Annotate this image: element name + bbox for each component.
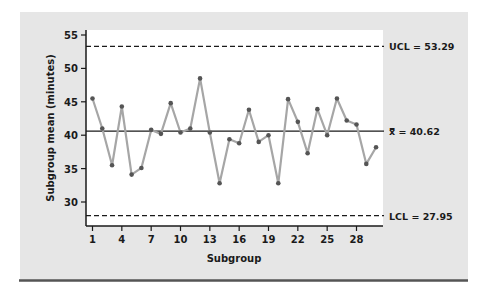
data-point xyxy=(227,137,232,142)
data-point xyxy=(296,120,301,125)
data-point xyxy=(208,130,213,135)
data-point xyxy=(276,181,281,186)
data-point xyxy=(354,122,359,127)
data-point xyxy=(335,96,340,101)
data-point xyxy=(315,107,320,112)
data-point xyxy=(120,104,125,109)
y-tick-label: 50 xyxy=(64,63,78,74)
data-point xyxy=(159,132,164,137)
plot-area xyxy=(86,30,383,226)
data-point xyxy=(217,181,222,186)
x-tick-label: 1 xyxy=(89,234,96,245)
y-tick-label: 40 xyxy=(64,130,78,141)
data-point xyxy=(325,133,330,138)
data-point xyxy=(149,128,154,133)
y-tick-label: 30 xyxy=(64,197,78,208)
x-tick-label: 10 xyxy=(174,234,188,245)
x-tick-label: 28 xyxy=(350,234,364,245)
data-point xyxy=(129,172,134,177)
data-point xyxy=(344,118,349,123)
data-point xyxy=(178,130,183,135)
y-tick-label: 35 xyxy=(64,164,78,175)
x-tick-label: 13 xyxy=(203,234,217,245)
data-point xyxy=(110,163,115,168)
center-label: x̿ = 40.62 xyxy=(389,126,440,137)
y-axis-label: Subgroup mean (minutes) xyxy=(45,54,56,202)
y-tick-label: 45 xyxy=(64,97,78,108)
data-point xyxy=(90,96,95,101)
y-tick-label: 55 xyxy=(64,30,78,41)
x-tick-label: 4 xyxy=(118,234,125,245)
x-tick-label: 19 xyxy=(262,234,276,245)
data-point xyxy=(198,76,203,81)
control-chart: UCL = 53.29x̿ = 40.62LCL = 27.95 3035404… xyxy=(0,0,494,300)
data-point xyxy=(247,108,252,113)
data-point xyxy=(139,166,144,171)
x-axis-label: Subgroup xyxy=(207,253,262,264)
data-point xyxy=(305,151,310,156)
data-point xyxy=(100,126,105,131)
lcl-label: LCL = 27.95 xyxy=(389,211,453,222)
data-point xyxy=(256,140,261,145)
data-point xyxy=(364,162,369,167)
x-tick-label: 22 xyxy=(291,234,305,245)
x-tick-label: 16 xyxy=(232,234,246,245)
data-point xyxy=(374,145,379,150)
ucl-label: UCL = 53.29 xyxy=(389,41,454,52)
data-point xyxy=(266,133,271,138)
data-point xyxy=(168,101,173,106)
data-point xyxy=(188,126,193,131)
data-point xyxy=(237,141,242,146)
x-tick-label: 25 xyxy=(320,234,334,245)
data-point xyxy=(286,97,291,102)
x-tick-label: 7 xyxy=(148,234,155,245)
